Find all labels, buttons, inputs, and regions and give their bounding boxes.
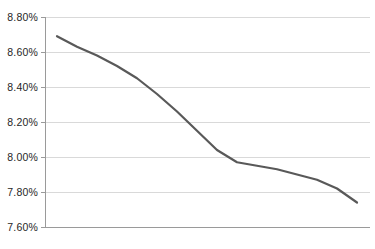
y-axis-label: 7.60% xyxy=(0,222,38,233)
y-axis-label: 8.40% xyxy=(0,82,38,93)
gridline xyxy=(45,17,370,18)
gridline xyxy=(45,87,370,88)
plot-area xyxy=(45,17,370,227)
y-axis-label: 8.60% xyxy=(0,47,38,58)
y-tick-mark xyxy=(41,17,45,18)
x-axis-line xyxy=(45,227,370,228)
y-axis-line xyxy=(45,17,46,228)
y-tick-mark xyxy=(41,87,45,88)
y-tick-mark xyxy=(41,52,45,53)
line-chart: 8.80% 8.60% 8.40% 8.20% 8.00% 7.80% 7.60… xyxy=(0,0,375,249)
y-axis-label: 7.80% xyxy=(0,187,38,198)
gridline xyxy=(45,157,370,158)
y-axis-label: 8.20% xyxy=(0,117,38,128)
y-tick-mark xyxy=(41,122,45,123)
y-tick-mark xyxy=(41,157,45,158)
y-axis-label: 8.00% xyxy=(0,152,38,163)
y-tick-mark xyxy=(41,227,45,228)
gridline xyxy=(45,52,370,53)
y-axis-label: 8.80% xyxy=(0,12,38,23)
y-tick-mark xyxy=(41,192,45,193)
gridline xyxy=(45,192,370,193)
gridline xyxy=(45,122,370,123)
